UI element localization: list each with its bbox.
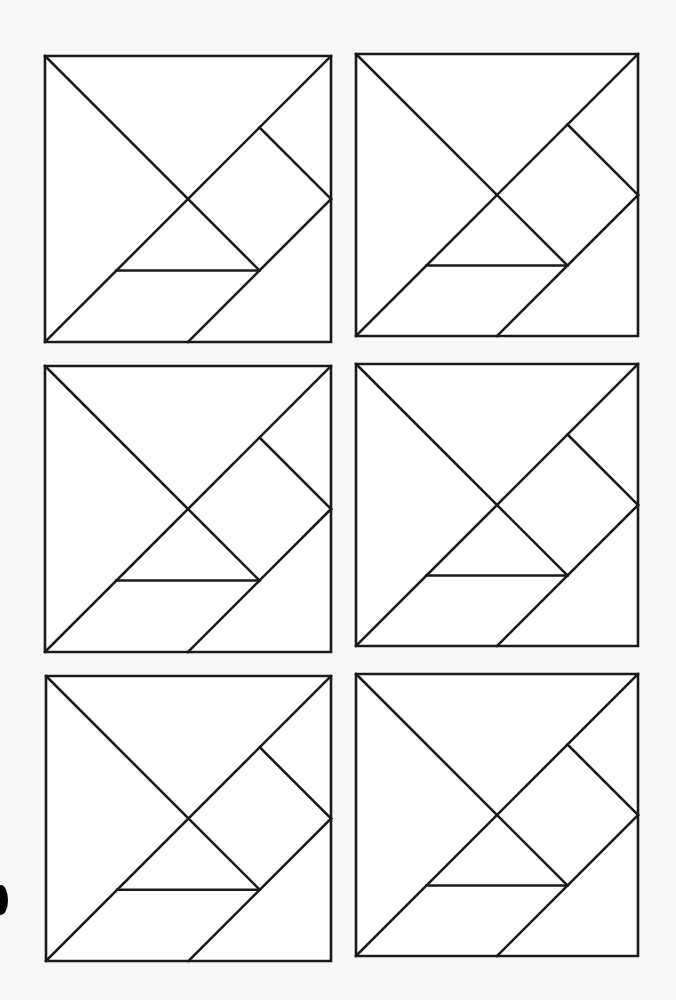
square-piece-edge (260, 747, 331, 818)
large-triangle-diagonal (45, 56, 260, 271)
tangram-lines (356, 364, 638, 646)
tangram-outline-4 (356, 364, 638, 646)
large-triangle-diagonal (356, 364, 568, 576)
tangram-lines (356, 674, 638, 956)
tangram-outline-5 (46, 676, 331, 961)
square-piece-edge (568, 745, 639, 816)
tangram-lines (45, 366, 331, 652)
large-triangle-diagonal (356, 54, 568, 266)
tangram-outline-2 (356, 54, 638, 336)
tangram-lines (356, 54, 638, 336)
square-piece-edge (260, 128, 332, 200)
punch-hole-mark (0, 885, 8, 915)
tangram-lines (46, 676, 331, 961)
tangram-outline-3 (45, 366, 331, 652)
tangram-outline-1 (45, 56, 331, 342)
square-piece-edge (568, 435, 639, 506)
tangram-outline-6 (356, 674, 638, 956)
square-piece-edge (568, 125, 639, 196)
large-triangle-diagonal (356, 674, 568, 886)
square-piece-edge (260, 438, 332, 510)
large-triangle-diagonal (45, 366, 260, 581)
tangram-lines (45, 56, 331, 342)
worksheet-page (0, 0, 676, 1000)
large-triangle-diagonal (46, 676, 260, 890)
